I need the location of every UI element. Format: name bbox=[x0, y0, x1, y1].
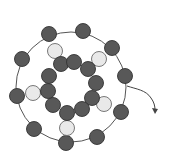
dark-node bbox=[46, 98, 61, 113]
diagram-canvas bbox=[0, 0, 169, 162]
dark-node bbox=[81, 62, 96, 77]
dark-node bbox=[76, 24, 91, 39]
dark-node bbox=[75, 102, 90, 117]
dark-node bbox=[60, 106, 75, 121]
dark-node bbox=[10, 89, 25, 104]
dark-node bbox=[90, 130, 105, 145]
light-node bbox=[60, 121, 75, 136]
dark-node bbox=[15, 52, 30, 67]
dark-node bbox=[118, 69, 133, 84]
dark-node bbox=[105, 41, 120, 56]
dark-node bbox=[89, 76, 104, 91]
dark-node bbox=[41, 84, 56, 99]
dark-node bbox=[59, 136, 74, 151]
dark-node bbox=[42, 69, 57, 84]
dark-node bbox=[67, 55, 82, 70]
light-node bbox=[26, 86, 41, 101]
dark-node bbox=[54, 57, 69, 72]
dark-node bbox=[42, 27, 57, 42]
dark-node bbox=[27, 122, 42, 137]
dark-node bbox=[114, 105, 129, 120]
ring-structure-diagram bbox=[0, 0, 169, 162]
